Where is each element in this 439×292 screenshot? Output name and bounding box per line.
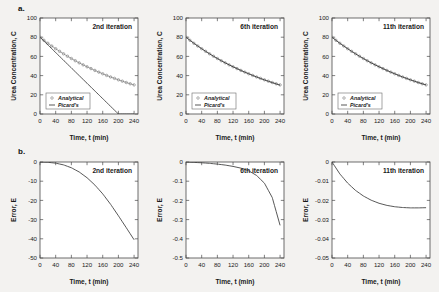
svg-text:0: 0 xyxy=(38,261,42,268)
svg-text:20: 20 xyxy=(322,91,329,98)
svg-text:40: 40 xyxy=(344,117,351,124)
svg-text:80: 80 xyxy=(322,33,329,40)
svg-text:11th iteration: 11th iteration xyxy=(383,167,424,174)
svg-text:0: 0 xyxy=(180,110,184,117)
svg-text:200: 200 xyxy=(405,117,416,124)
svg-text:Analytical: Analytical xyxy=(203,95,230,101)
svg-text:200: 200 xyxy=(259,261,270,268)
svg-text:160: 160 xyxy=(98,117,109,124)
svg-text:-40: -40 xyxy=(28,235,37,242)
svg-text:100: 100 xyxy=(319,14,330,21)
svg-text:40: 40 xyxy=(30,72,37,79)
svg-text:40: 40 xyxy=(198,117,205,124)
svg-text:80: 80 xyxy=(360,261,367,268)
svg-text:80: 80 xyxy=(30,33,37,40)
svg-text:120: 120 xyxy=(374,117,385,124)
svg-text:240: 240 xyxy=(129,117,140,124)
svg-text:200: 200 xyxy=(113,117,124,124)
svg-text:0: 0 xyxy=(38,117,42,124)
svg-text:160: 160 xyxy=(244,117,255,124)
svg-text:-0.2: -0.2 xyxy=(172,197,183,204)
chart-cell-b3: 040801201602002400-0.01-0.02-0.03-0.04-0… xyxy=(292,152,438,292)
svg-text:-0.5: -0.5 xyxy=(172,254,183,261)
svg-text:0: 0 xyxy=(184,117,188,124)
svg-text:Picard's: Picard's xyxy=(204,102,225,108)
svg-text:-0.03: -0.03 xyxy=(315,216,330,223)
svg-text:160: 160 xyxy=(390,261,401,268)
svg-text:Time, t (min): Time, t (min) xyxy=(361,278,400,286)
svg-text:Analytical: Analytical xyxy=(349,95,376,101)
figure-root: a. b. 04080120160200240020406080100Time,… xyxy=(0,0,439,292)
svg-text:0: 0 xyxy=(184,261,188,268)
svg-text:240: 240 xyxy=(129,261,140,268)
svg-text:6th iteration: 6th iteration xyxy=(240,23,278,30)
svg-text:80: 80 xyxy=(68,261,75,268)
svg-text:120: 120 xyxy=(82,261,93,268)
svg-text:80: 80 xyxy=(360,117,367,124)
svg-text:0: 0 xyxy=(326,158,330,165)
svg-text:60: 60 xyxy=(176,53,183,60)
svg-text:40: 40 xyxy=(344,261,351,268)
svg-text:80: 80 xyxy=(68,117,75,124)
svg-text:Error, E: Error, E xyxy=(156,197,164,221)
svg-text:40: 40 xyxy=(52,117,59,124)
svg-text:Picard's: Picard's xyxy=(58,102,79,108)
svg-text:240: 240 xyxy=(275,117,286,124)
svg-text:0: 0 xyxy=(326,110,330,117)
svg-text:100: 100 xyxy=(27,14,38,21)
chart-cell-a1: 04080120160200240020406080100Time, t (mi… xyxy=(0,8,146,148)
svg-text:0: 0 xyxy=(34,110,38,117)
svg-text:20: 20 xyxy=(30,91,37,98)
svg-text:240: 240 xyxy=(421,261,432,268)
svg-text:Time, t (min): Time, t (min) xyxy=(215,278,254,286)
svg-text:40: 40 xyxy=(322,72,329,79)
svg-text:-10: -10 xyxy=(28,177,37,184)
svg-text:-0.05: -0.05 xyxy=(315,254,330,261)
svg-text:-0.04: -0.04 xyxy=(315,235,330,242)
svg-text:80: 80 xyxy=(214,261,221,268)
svg-text:6th iteration: 6th iteration xyxy=(240,167,278,174)
svg-text:80: 80 xyxy=(176,33,183,40)
svg-text:160: 160 xyxy=(390,117,401,124)
svg-text:40: 40 xyxy=(176,72,183,79)
svg-text:240: 240 xyxy=(421,117,432,124)
svg-text:Time, t (min): Time, t (min) xyxy=(361,134,400,142)
svg-text:20: 20 xyxy=(176,91,183,98)
svg-text:200: 200 xyxy=(259,117,270,124)
chart-cell-b2: 040801201602002400-0.1-0.2-0.3-0.4-0.5Ti… xyxy=(146,152,292,292)
chart-cell-b1: 040801201602002400-10-20-30-40-50Time, t… xyxy=(0,152,146,292)
svg-text:Time, t (min): Time, t (min) xyxy=(215,134,254,142)
svg-text:80: 80 xyxy=(214,117,221,124)
svg-text:120: 120 xyxy=(228,261,239,268)
svg-text:Analytical: Analytical xyxy=(57,95,84,101)
svg-text:Error, E: Error, E xyxy=(10,197,18,221)
svg-text:-20: -20 xyxy=(28,197,37,204)
svg-text:-0.4: -0.4 xyxy=(172,235,183,242)
svg-text:2nd iteration: 2nd iteration xyxy=(92,23,132,30)
chart-cell-a2: 04080120160200240020406080100Time, t (mi… xyxy=(146,8,292,148)
svg-text:60: 60 xyxy=(322,53,329,60)
svg-text:0: 0 xyxy=(34,158,38,165)
svg-text:-0.02: -0.02 xyxy=(315,197,330,204)
svg-text:-30: -30 xyxy=(28,216,37,223)
svg-text:240: 240 xyxy=(275,261,286,268)
svg-text:120: 120 xyxy=(82,117,93,124)
svg-text:Urea Concentration, C: Urea Concentration, C xyxy=(10,31,18,101)
svg-text:160: 160 xyxy=(98,261,109,268)
svg-text:Error, E: Error, E xyxy=(302,197,310,221)
svg-text:Time, t (min): Time, t (min) xyxy=(69,278,108,286)
svg-text:Picard's: Picard's xyxy=(350,102,371,108)
svg-text:Urea Concentration, C: Urea Concentration, C xyxy=(156,31,164,101)
svg-text:Urea Concentration, C: Urea Concentration, C xyxy=(302,31,310,101)
svg-text:-0.01: -0.01 xyxy=(315,177,330,184)
chart-cell-a3: 04080120160200240020406080100Time, t (mi… xyxy=(292,8,438,148)
svg-text:0: 0 xyxy=(180,158,184,165)
svg-text:120: 120 xyxy=(374,261,385,268)
svg-text:40: 40 xyxy=(52,261,59,268)
svg-text:-50: -50 xyxy=(28,254,37,261)
svg-text:-0.3: -0.3 xyxy=(172,216,183,223)
svg-text:200: 200 xyxy=(113,261,124,268)
svg-text:2nd iteration: 2nd iteration xyxy=(92,167,132,174)
svg-text:0: 0 xyxy=(330,117,334,124)
svg-text:40: 40 xyxy=(198,261,205,268)
